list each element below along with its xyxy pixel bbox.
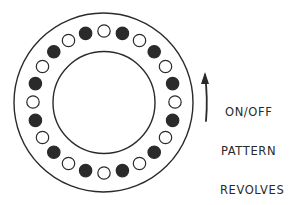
arrow-head <box>201 72 209 84</box>
rotation-arrow-icon <box>201 72 209 121</box>
outer-ring <box>14 13 193 192</box>
dot-on <box>79 27 91 39</box>
label-line-1: ON/OFF <box>220 106 284 119</box>
inner-ring <box>53 52 155 154</box>
dot-ring <box>27 25 181 179</box>
label-line-3: REVOLVES <box>220 184 284 197</box>
dot-on <box>48 146 60 158</box>
dot-off <box>27 96 39 108</box>
label-line-2: PATTERN <box>220 145 284 158</box>
dot-on <box>29 114 41 126</box>
dot-off <box>62 34 74 46</box>
dot-off <box>159 131 171 143</box>
dot-on <box>116 164 128 176</box>
dot-off <box>36 60 48 72</box>
dot-on <box>166 77 178 89</box>
dot-off <box>36 131 48 143</box>
dot-on <box>48 46 60 58</box>
dot-on <box>148 46 160 58</box>
dot-on <box>116 27 128 39</box>
dot-on <box>166 114 178 126</box>
dot-on <box>79 164 91 176</box>
dot-off <box>98 167 110 179</box>
dot-on <box>29 77 41 89</box>
dot-on <box>148 146 160 158</box>
dot-off <box>62 157 74 169</box>
rotation-label: ON/OFF PATTERN REVOLVES <box>220 80 284 205</box>
dot-off <box>169 96 181 108</box>
dot-off <box>98 25 110 37</box>
dot-off <box>133 157 145 169</box>
dot-off <box>159 60 171 72</box>
dot-off <box>133 34 145 46</box>
